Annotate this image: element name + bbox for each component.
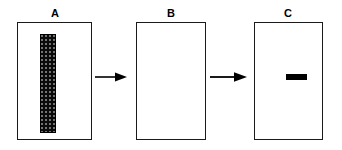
panel-b <box>136 22 206 140</box>
panel-c <box>254 22 323 140</box>
panel-label-c: C <box>278 7 298 19</box>
stippled-vertical-band <box>40 34 56 133</box>
panel-label-a: A <box>45 7 65 19</box>
arrow-right-icon-b-to-c <box>210 71 247 83</box>
panel-a <box>17 22 92 140</box>
panel-label-b: B <box>161 7 181 19</box>
figure-canvas: A B C <box>0 0 342 150</box>
arrow-right-icon-a-to-b <box>95 71 127 83</box>
solid-horizontal-band <box>286 74 307 80</box>
